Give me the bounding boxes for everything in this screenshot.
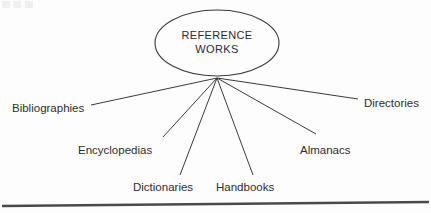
- center-node-label-line2: WORKS: [195, 43, 238, 55]
- connector-directories: [217, 78, 358, 99]
- connector-dictionaries: [180, 78, 217, 175]
- leaf-label-directories: Directories: [364, 97, 419, 109]
- connector-handbooks: [217, 78, 253, 175]
- leaf-label-dictionaries: Dictionaries: [133, 181, 193, 193]
- reference-works-diagram: REFERENCE WORKS Bibliographies Encyclope…: [0, 0, 431, 213]
- leaf-label-almanacs: Almanacs: [300, 144, 351, 156]
- leaf-label-handbooks: Handbooks: [216, 181, 274, 193]
- connector-almanacs: [217, 78, 316, 134]
- connector-lines: [91, 78, 358, 175]
- diagram-canvas: REFERENCE WORKS Bibliographies Encyclope…: [0, 0, 431, 213]
- page-baseline-rule: [2, 202, 429, 206]
- connector-encyclopedias: [163, 78, 217, 137]
- connector-bibliographies: [91, 78, 217, 105]
- center-node-label-line1: REFERENCE: [182, 29, 253, 41]
- leaf-label-encyclopedias: Encyclopedias: [78, 144, 152, 156]
- leaf-label-bibliographies: Bibliographies: [12, 102, 84, 114]
